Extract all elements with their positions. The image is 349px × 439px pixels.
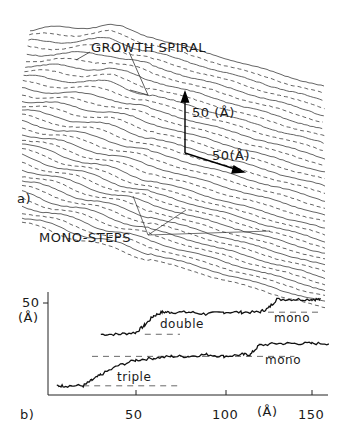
mono-steps-label: MONO-STEPS — [39, 231, 131, 244]
y-unit: (Å) — [18, 311, 39, 324]
x-tick-50: 50 — [125, 408, 143, 421]
panel-b-label: b) — [20, 408, 34, 421]
panel-a-label: a) — [17, 192, 31, 205]
annotation-triple: triple — [117, 371, 151, 383]
vertical-scale-label: 50 (Å) — [192, 106, 235, 119]
annotation-mono-lower: mono — [265, 354, 301, 366]
growth-spiral-label: GROWTH SPIRAL — [91, 41, 206, 54]
stm-line-scans — [22, 24, 325, 307]
annotation-mono-upper: mono — [274, 312, 310, 324]
figure-canvas — [0, 0, 349, 439]
x-tick-150: 150 — [298, 408, 324, 421]
x-tick-100: 100 — [212, 408, 238, 421]
x-unit: (Å) — [257, 405, 278, 418]
y-tick-50: 50 — [22, 296, 40, 309]
annotation-double: double — [160, 318, 204, 330]
horizontal-scale-label: 50(Å) — [212, 149, 250, 162]
leader-lines — [76, 52, 148, 95]
